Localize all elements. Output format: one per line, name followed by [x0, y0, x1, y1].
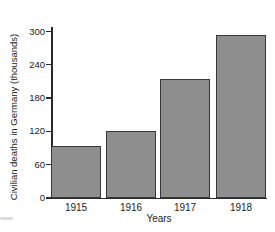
y-tick-label: 120	[16, 126, 45, 136]
y-tick-mark	[46, 64, 52, 65]
y-tick-label: 300	[16, 27, 45, 37]
scan-smudge	[0, 217, 13, 220]
x-axis-title: Years	[51, 213, 267, 224]
y-tick-label: 240	[16, 60, 45, 70]
y-axis-title: Civilian deaths in Germany (thousands)	[8, 14, 20, 220]
x-tick-label-1916: 1916	[106, 202, 156, 213]
y-tick-mark	[46, 131, 52, 132]
y-tick-label: 60	[16, 160, 45, 170]
y-tick-label: 180	[16, 93, 45, 103]
bar-chart: Civilian deaths in Germany (thousands) 0…	[0, 0, 275, 232]
bar-1916	[106, 131, 156, 198]
y-tick-mark	[46, 97, 52, 98]
y-tick-label: 0	[16, 193, 45, 203]
x-tick-label-1917: 1917	[160, 202, 210, 213]
x-tick-label-1915: 1915	[51, 202, 101, 213]
y-tick-mark	[46, 31, 52, 32]
x-tick-label-1918: 1918	[216, 202, 266, 213]
bar-1917	[160, 79, 210, 198]
bar-1918	[216, 35, 266, 198]
bar-1915	[51, 146, 101, 198]
